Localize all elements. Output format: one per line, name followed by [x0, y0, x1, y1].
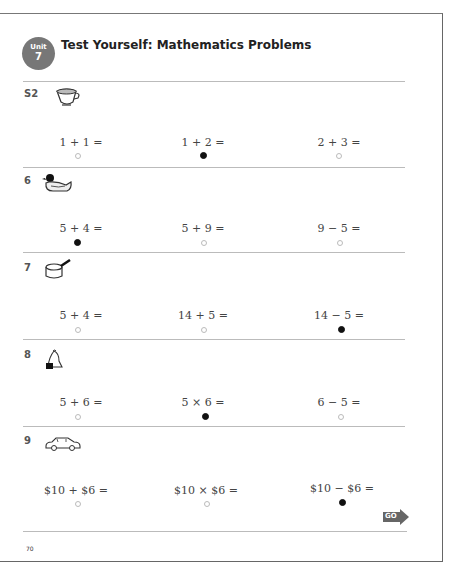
divider	[23, 531, 407, 532]
answer-bubble-selected[interactable]	[200, 152, 207, 159]
answer-option: 5 + 6 =	[21, 396, 141, 409]
answer-bubble[interactable]	[75, 501, 81, 507]
answer-option: 5 + 4 =	[21, 222, 141, 235]
answer-bubble[interactable]	[201, 327, 207, 333]
pot-icon	[43, 259, 73, 281]
divider	[23, 81, 405, 82]
answer-bubble[interactable]	[336, 153, 342, 159]
answer-bubble[interactable]	[337, 240, 343, 246]
answer-bubble[interactable]	[75, 327, 81, 333]
question-number: 9	[24, 435, 31, 446]
question-number: 7	[24, 262, 31, 273]
divider	[23, 339, 405, 340]
answer-option: 14 + 5 =	[143, 309, 263, 322]
answer-option: $10 + $6 =	[16, 484, 136, 497]
answer-option: 5 × 6 =	[143, 396, 263, 409]
answer-option: $10 − $6 =	[282, 482, 402, 495]
answer-option: 9 − 5 =	[279, 222, 399, 235]
divider	[23, 167, 405, 168]
go-label: GO	[385, 512, 397, 520]
question-number: S2	[24, 88, 38, 99]
bell-icon	[44, 349, 64, 373]
answer-bubble[interactable]	[201, 240, 207, 246]
unit-number: 7	[22, 51, 55, 62]
car-icon	[44, 436, 82, 452]
answer-bubble[interactable]	[338, 414, 344, 420]
answer-bubble[interactable]	[204, 501, 210, 507]
answer-bubble-selected[interactable]	[338, 326, 345, 333]
go-arrow: GO	[383, 509, 409, 529]
answer-option: 5 + 4 =	[21, 309, 141, 322]
answer-bubble[interactable]	[75, 153, 81, 159]
question-number: 6	[24, 175, 31, 186]
answer-bubble-selected[interactable]	[74, 239, 81, 246]
answer-option: 14 − 5 =	[279, 309, 399, 322]
teacup-icon	[54, 87, 82, 109]
answer-option: 1 + 1 =	[21, 136, 141, 149]
answer-bubble[interactable]	[75, 414, 81, 420]
unit-label: Unit	[22, 37, 55, 51]
answer-bubble-selected[interactable]	[339, 499, 346, 506]
page-number: 70	[26, 545, 34, 552]
duck-icon	[41, 173, 73, 195]
answer-option: $10 × $6 =	[146, 484, 266, 497]
answer-option: 5 + 9 =	[143, 222, 263, 235]
page-title: Test Yourself: Mathematics Problems	[61, 38, 311, 52]
unit-badge: Unit 7	[22, 37, 55, 70]
question-number: 8	[24, 349, 31, 360]
answer-option: 1 + 2 =	[143, 136, 263, 149]
divider	[23, 426, 405, 427]
answer-option: 6 − 5 =	[279, 396, 399, 409]
divider	[23, 252, 405, 253]
answer-option: 2 + 3 =	[279, 136, 399, 149]
answer-bubble-selected[interactable]	[202, 413, 209, 420]
